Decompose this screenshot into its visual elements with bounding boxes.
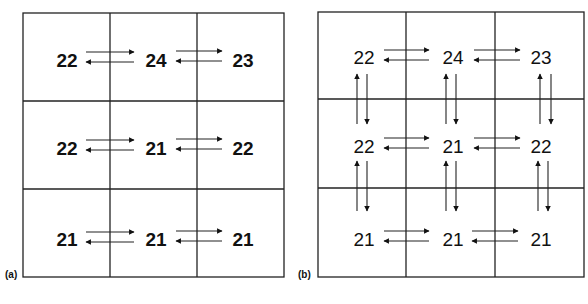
arrow-pair-vertical <box>357 161 367 211</box>
cell-value: 21 <box>442 136 463 157</box>
arrow-pair-vertical <box>446 161 456 211</box>
cell-value: 22 <box>353 47 374 68</box>
panel-a: (a) 22 24 23 22 21 22 21 21 21 <box>5 13 284 280</box>
cell-value: 22 <box>530 136 551 157</box>
cell-value: 21 <box>442 229 463 250</box>
arrow-pair-horizontal <box>474 138 520 148</box>
cell-value: 21 <box>353 229 374 250</box>
cell-value: 22 <box>56 50 77 71</box>
cell-value: 24 <box>145 50 167 71</box>
arrow-pair-horizontal <box>176 231 222 241</box>
cell-value: 21 <box>232 229 254 250</box>
cell-value: 21 <box>145 138 167 159</box>
panel-b: (b) 22 24 23 22 21 22 21 21 21 <box>298 12 584 280</box>
cell-value: 24 <box>442 47 464 68</box>
panel-a-label: (a) <box>5 269 17 280</box>
arrow-pair-horizontal <box>176 51 222 61</box>
cell-value: 21 <box>145 229 167 250</box>
cell-value: 22 <box>232 138 253 159</box>
cell-value: 22 <box>353 136 374 157</box>
cell-value: 21 <box>530 229 551 250</box>
panel-b-label: (b) <box>298 269 311 280</box>
cell-value: 23 <box>530 47 551 68</box>
cell-value: 23 <box>232 50 253 71</box>
diagram-canvas: (a) 22 24 23 22 21 22 21 21 21 <box>0 0 588 304</box>
arrow-pair-vertical <box>538 161 548 211</box>
cell-value: 22 <box>56 138 77 159</box>
arrow-pair-horizontal <box>474 50 520 60</box>
arrow-pair-horizontal <box>176 139 222 149</box>
cell-value: 21 <box>56 229 78 250</box>
